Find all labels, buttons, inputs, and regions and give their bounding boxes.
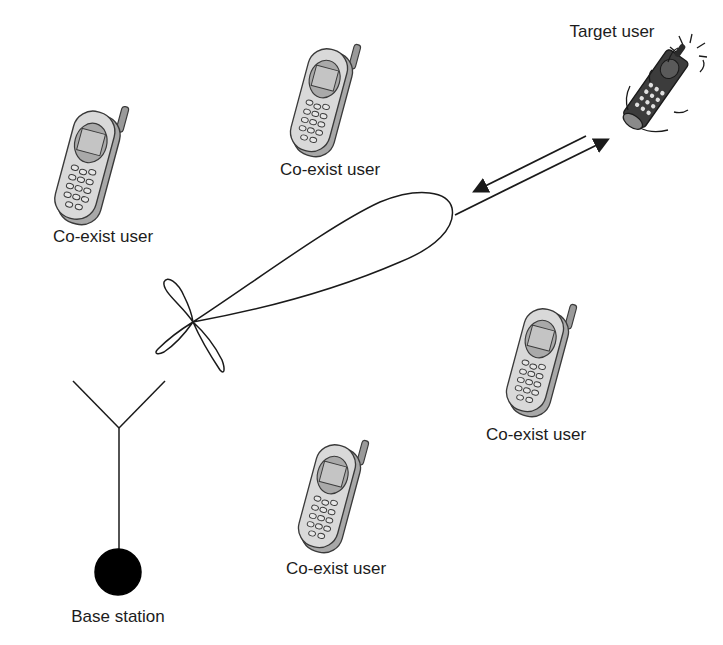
coexist-phone-icon-left xyxy=(49,95,129,229)
side-lobe-left xyxy=(156,322,193,354)
base-station-icon xyxy=(73,381,165,595)
downlink-arrow xyxy=(455,140,607,215)
coexist-phone-icon-top xyxy=(285,34,361,162)
coexist-user-label-top: Co-exist user xyxy=(280,161,380,178)
coexist-user-label-bottom: Co-exist user xyxy=(286,560,386,577)
coexist-phone-icon-bottom xyxy=(293,430,369,558)
antenna-left-arm xyxy=(73,381,119,428)
main-lobe xyxy=(193,193,452,322)
coexist-user-label-left: Co-exist user xyxy=(53,228,153,245)
side-lobe-upper xyxy=(164,279,193,322)
target-user-label: Target user xyxy=(569,23,654,40)
beamforming-diagram xyxy=(0,0,723,645)
coexist-user-label-right: Co-exist user xyxy=(486,426,586,443)
side-lobe-lower xyxy=(193,322,224,372)
antenna-right-arm xyxy=(119,381,165,428)
base-station-node xyxy=(95,549,141,595)
coexist-phone-icon-right xyxy=(501,294,577,422)
target-phone-icon xyxy=(619,39,697,134)
base-station-label: Base station xyxy=(71,608,165,625)
beam-pattern xyxy=(156,193,453,373)
uplink-arrow xyxy=(475,136,586,191)
